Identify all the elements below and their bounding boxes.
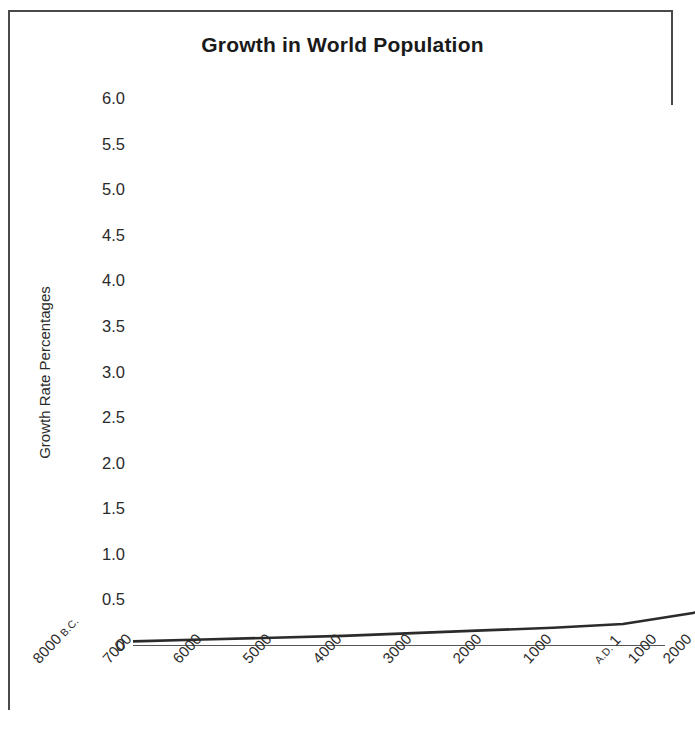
y-tick-label: 0.5: [79, 591, 125, 608]
y-tick-label: 1.5: [79, 500, 125, 517]
y-tick-label: 1.0: [79, 546, 125, 563]
y-tick-label: 2.0: [79, 454, 125, 471]
y-axis-title: Growth Rate Percentages: [36, 243, 53, 503]
y-tick-label: 5.0: [79, 181, 125, 198]
y-axis-tick-labels: 6.05.55.04.54.03.53.02.52.01.51.00.50: [73, 98, 125, 645]
y-tick-label: 3.5: [79, 318, 125, 335]
x-axis-tick-labels: 8000 B.C.7000600050004000300020001000A.D…: [0, 655, 685, 739]
data-series-line: [133, 98, 665, 645]
y-tick-label: 3.0: [79, 363, 125, 380]
y-tick-label: 4.5: [79, 227, 125, 244]
chart-title: Growth in World Population: [0, 33, 685, 57]
y-tick-label: 5.5: [79, 135, 125, 152]
y-tick-label: 6.0: [79, 90, 125, 107]
y-tick-label: 4.0: [79, 272, 125, 289]
plot-area: [133, 98, 665, 645]
series-polyline: [133, 98, 695, 641]
y-tick-label: 2.5: [79, 409, 125, 426]
